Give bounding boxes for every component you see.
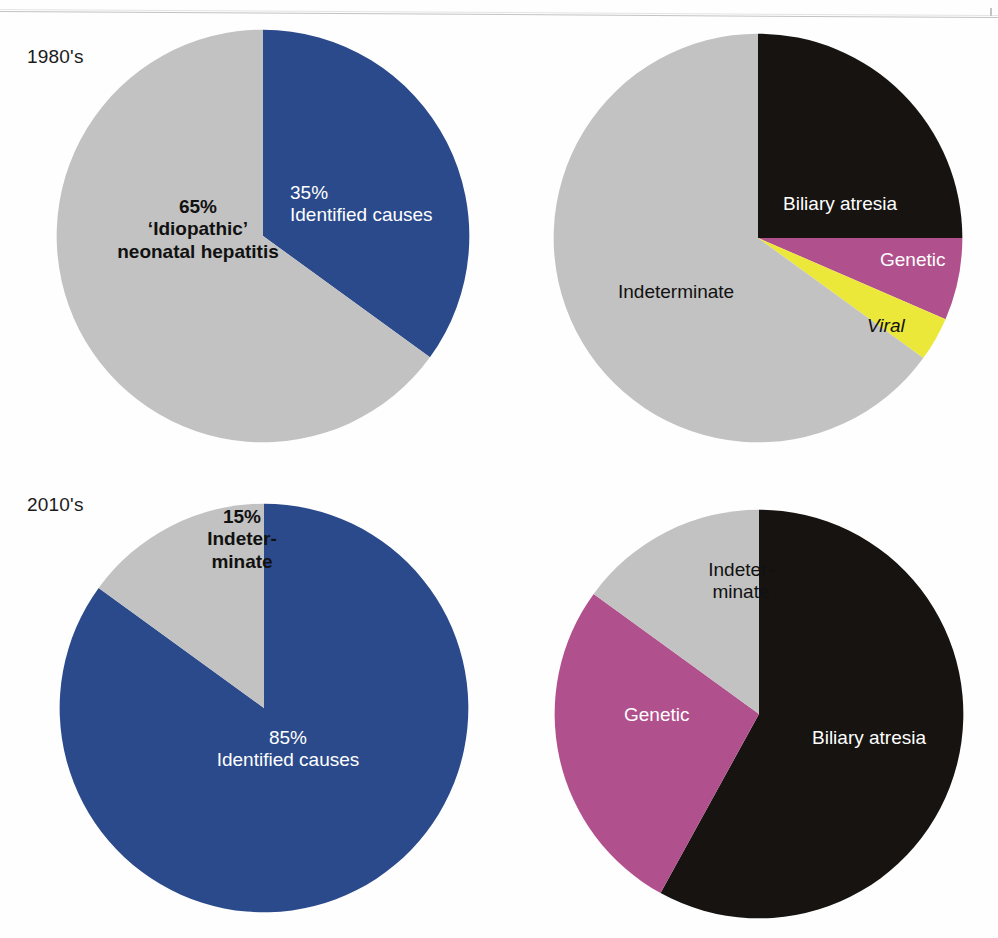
scan-page-edge (0, 8, 998, 22)
pie-slices (554, 34, 963, 443)
pie-chart-2010s-breakdown (553, 508, 965, 920)
figure-canvas: 1980's 2010's 35% Identified causes 65% … (0, 0, 998, 938)
pie-slices (60, 504, 469, 913)
pie-slices (555, 510, 964, 919)
pie-svg (553, 508, 965, 920)
pie-slices (57, 30, 470, 443)
pie-svg (58, 502, 470, 914)
pie-svg (552, 32, 964, 444)
pie-svg (55, 28, 471, 444)
pie-chart-1980s-attribution (55, 28, 471, 444)
pie-chart-2010s-attribution (58, 502, 470, 914)
pie-slice (758, 34, 962, 238)
pie-chart-1980s-breakdown (552, 32, 964, 444)
